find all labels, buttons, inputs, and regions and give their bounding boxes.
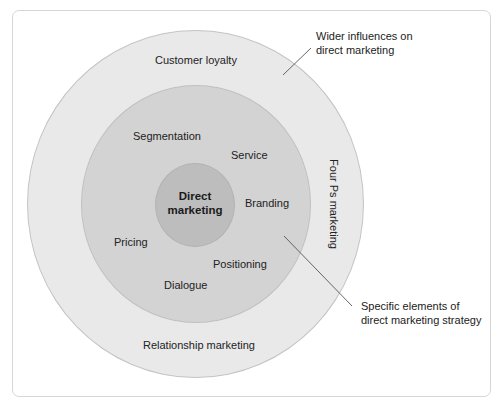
callout-specific-elements: Specific elements of direct marketing st… [361, 299, 481, 327]
label-segmentation: Segmentation [133, 130, 201, 143]
label-dialogue: Dialogue [164, 279, 207, 292]
label-service: Service [231, 149, 268, 162]
label-relationship-marketing: Relationship marketing [143, 339, 255, 352]
callout-specific-elements-line-1: Specific elements of [361, 299, 481, 313]
label-branding: Branding [245, 197, 289, 210]
label-customer-loyalty: Customer loyalty [155, 54, 237, 67]
label-four-ps-marketing: Four Ps marketing [327, 159, 340, 249]
center-label: Direct marketing [155, 189, 235, 217]
center-label-line-2: marketing [155, 203, 235, 217]
center-label-line-1: Direct [155, 189, 235, 203]
label-positioning: Positioning [213, 258, 267, 271]
callout-wider-influences-line-2: direct marketing [316, 43, 413, 57]
label-pricing: Pricing [114, 236, 148, 249]
callout-wider-influences: Wider influences on direct marketing [316, 29, 413, 57]
callout-specific-elements-line-2: direct marketing strategy [361, 313, 481, 327]
callout-wider-influences-line-1: Wider influences on [316, 29, 413, 43]
